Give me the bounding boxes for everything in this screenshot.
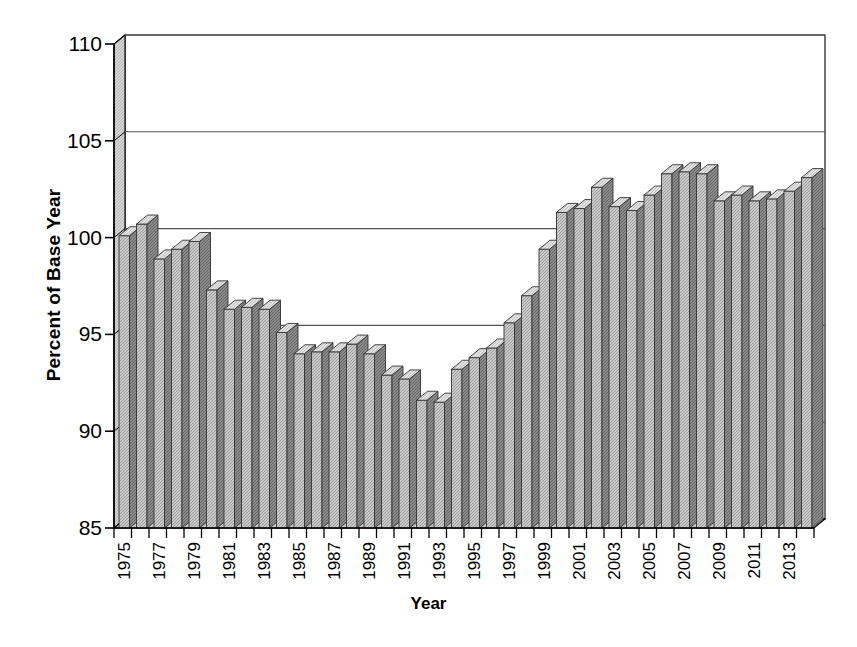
x-tick-label-2011: 2011 [746, 542, 763, 608]
x-tick-label-1985: 1985 [291, 542, 308, 608]
x-tick-label-1997: 1997 [501, 542, 518, 608]
chart-figure: Percent of Base Year Year 85909510010511… [0, 0, 857, 647]
bar-2014 [802, 169, 824, 528]
y-tick-label-90: 90 [48, 420, 102, 441]
x-tick-label-1999: 1999 [536, 542, 553, 608]
y-tick-label-95: 95 [48, 323, 102, 344]
plot-area: 859095100105110 197519771979198119831985… [0, 0, 857, 647]
x-tick-label-1979: 1979 [186, 542, 203, 608]
x-tick-label-1995: 1995 [466, 542, 483, 608]
y-tick-label-105: 105 [48, 130, 102, 151]
x-tick-label-1989: 1989 [361, 542, 378, 608]
x-tick-label-2007: 2007 [676, 542, 693, 608]
y-tick-label-110: 110 [48, 33, 102, 54]
y-tick-label-100: 100 [48, 227, 102, 248]
x-tick-label-1983: 1983 [256, 542, 273, 608]
x-tick-label-2003: 2003 [606, 542, 623, 608]
x-tick-label-2005: 2005 [641, 542, 658, 608]
x-tick-label-1993: 1993 [431, 542, 448, 608]
x-tick-label-1975: 1975 [116, 542, 133, 608]
x-tick-label-2001: 2001 [571, 542, 588, 608]
x-tick-label-1977: 1977 [151, 542, 168, 608]
y-tick-label-85: 85 [48, 517, 102, 538]
x-tick-label-2009: 2009 [711, 542, 728, 608]
x-tick-label-1991: 1991 [396, 542, 413, 608]
x-tick-label-2013: 2013 [781, 542, 798, 608]
x-tick-label-1981: 1981 [221, 542, 238, 608]
x-tick-label-1987: 1987 [326, 542, 343, 608]
